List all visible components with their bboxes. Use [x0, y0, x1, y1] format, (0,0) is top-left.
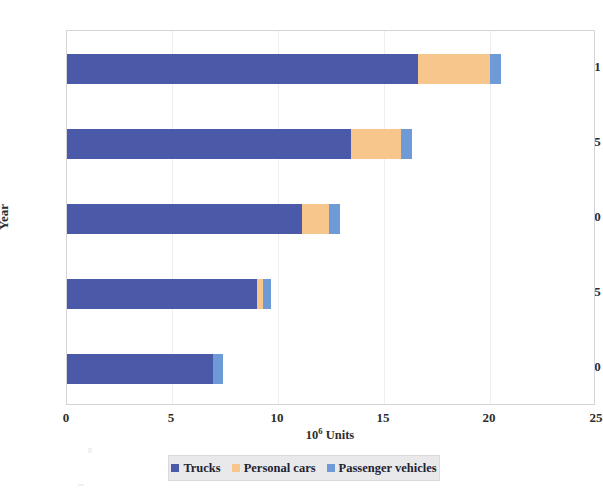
stacked-bar-2015 [67, 279, 271, 309]
legend-item-trucks: Trucks [171, 461, 220, 476]
plot-area [66, 30, 595, 405]
bar-segment-trucks-2015 [67, 279, 257, 309]
scan-speckle [88, 448, 92, 453]
bar-row-2025 [67, 106, 594, 181]
scan-speckle [78, 484, 84, 486]
x-tick-label-15: 15 [377, 410, 390, 426]
bar-row-2031 [67, 31, 594, 106]
legend-label-personal-cars: Personal cars [244, 461, 316, 476]
bar-row-2010 [67, 331, 594, 406]
bar-segment-passenger-vehicles-2031 [490, 54, 501, 84]
bar-segment-personal-cars-2020 [302, 204, 330, 234]
bar-segment-passenger-vehicles-2015 [263, 279, 272, 309]
legend-swatch-icon-trucks [171, 464, 179, 472]
legend-swatch-icon-passenger-vehicles [327, 464, 335, 472]
bar-segment-passenger-vehicles-2010 [213, 354, 223, 384]
x-axis-title-base: 10 [306, 428, 319, 442]
bar-row-2020 [67, 181, 594, 256]
legend-swatch-icon-personal-cars [232, 464, 240, 472]
x-tick-label-5: 5 [168, 410, 175, 426]
x-tick-label-10: 10 [271, 410, 284, 426]
legend-label-passenger-vehicles: Passenger vehicles [339, 461, 437, 476]
legend-item-personal-cars: Personal cars [232, 461, 316, 476]
bar-segment-trucks-2020 [67, 204, 302, 234]
x-tick-label-0: 0 [63, 410, 70, 426]
y-axis-title: Year [0, 204, 12, 230]
chart-legend: Trucks Personal cars Passenger vehicles [168, 455, 440, 481]
x-axis-title-unit: Units [323, 428, 355, 442]
x-tick-label-20: 20 [483, 410, 496, 426]
bar-segment-personal-cars-2031 [418, 54, 490, 84]
legend-item-passenger-vehicles: Passenger vehicles [327, 461, 437, 476]
bar-segment-passenger-vehicles-2025 [401, 129, 412, 159]
bar-row-2015 [67, 256, 594, 331]
bar-segment-trucks-2025 [67, 129, 351, 159]
x-tick-label-25: 25 [590, 410, 603, 426]
bar-segment-trucks-2010 [67, 354, 213, 384]
legend-label-trucks: Trucks [183, 461, 220, 476]
stacked-bar-2025 [67, 129, 412, 159]
bar-segment-passenger-vehicles-2020 [329, 204, 340, 234]
stacked-bar-2031 [67, 54, 501, 84]
bar-segment-personal-cars-2025 [351, 129, 402, 159]
stacked-bar-2020 [67, 204, 340, 234]
bar-segment-trucks-2031 [67, 54, 418, 84]
stacked-bar-2010 [67, 354, 223, 384]
x-axis-title: 106 Units [306, 426, 354, 443]
